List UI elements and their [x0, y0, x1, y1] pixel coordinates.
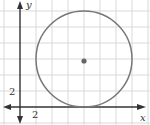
y-axis-label: y [25, 0, 32, 10]
y-tick-label: 2 [9, 86, 15, 97]
coordinate-plane-figure: y x 2 2 [0, 0, 150, 125]
y-axis [17, 1, 23, 124]
x-tick-label: 2 [32, 109, 38, 120]
x-axis-arrow-right-icon [137, 104, 146, 110]
x-axis-label: x [140, 112, 146, 123]
y-axis-arrow-up-icon [17, 1, 23, 9]
center-point [81, 58, 86, 63]
x-axis [3, 104, 146, 110]
